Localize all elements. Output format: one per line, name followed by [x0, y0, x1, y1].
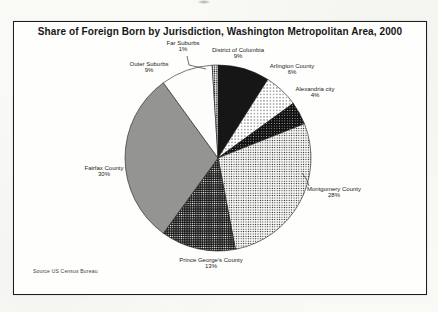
label-pct: 1% — [166, 46, 199, 52]
pie-slices-group — [125, 65, 311, 251]
label-pct: 13% — [179, 263, 243, 269]
label-far-suburbs: Far Suburbs 1% — [166, 40, 199, 52]
label-prince-georges-county: Prince George's County 13% — [179, 257, 243, 269]
label-pct: 6% — [270, 69, 314, 75]
scanned-chart-page: Share of Foreign Born by Jurisdiction, W… — [0, 0, 438, 312]
label-alexandria-city: Alexandria city 4% — [295, 86, 334, 98]
label-district-of-columbia: District of Columbia 9% — [212, 47, 264, 59]
label-fairfax-county: Fairfax County 30% — [84, 165, 123, 177]
label-pct: 28% — [307, 192, 361, 198]
label-montgomery-county: Montgomery County 28% — [307, 186, 361, 198]
label-pct: 4% — [295, 92, 334, 98]
label-arlington-county: Arlington County 6% — [270, 63, 314, 75]
label-pct: 9% — [129, 67, 168, 73]
label-pct: 30% — [84, 171, 123, 177]
label-pct: 9% — [212, 53, 264, 59]
label-outer-suburbs: Outer Suburbs 9% — [129, 61, 168, 73]
source-note: Source US Census Bureau — [33, 268, 98, 274]
